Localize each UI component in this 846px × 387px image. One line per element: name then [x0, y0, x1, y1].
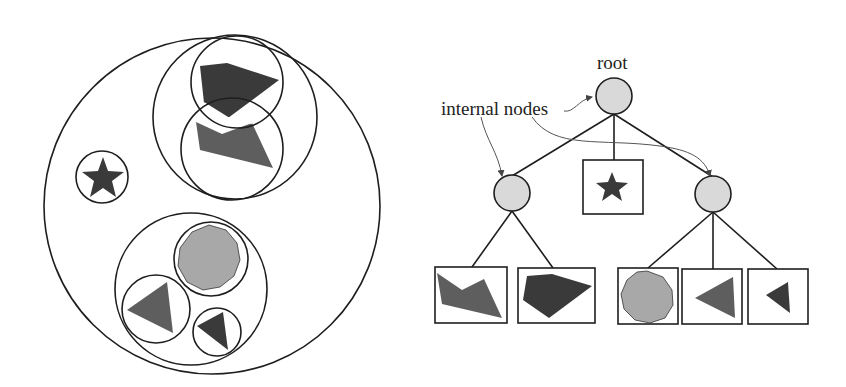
edge-right-leaf3 — [713, 212, 777, 269]
light-octagon-shape — [178, 225, 240, 290]
right-internal-node — [695, 176, 731, 212]
bvh-diagram: root internal nodes — [0, 0, 846, 387]
root-label: root — [597, 52, 628, 73]
hierarchy-tree: root internal nodes — [435, 52, 808, 324]
root-node — [596, 78, 632, 114]
edge-right-leaf1 — [648, 212, 713, 268]
gray-quadrilateral-shape — [196, 122, 273, 168]
small-dark-triangle-shape — [197, 312, 228, 350]
star-shape — [82, 157, 124, 197]
arrow-to-left-internal — [481, 117, 502, 176]
gray-triangle-shape — [127, 282, 173, 333]
arrow-to-root — [564, 97, 592, 111]
dark-pentagon-shape — [200, 63, 279, 118]
edge-left-leaf1 — [472, 211, 512, 267]
top-group-bounding-circle — [153, 35, 317, 199]
internal-nodes-label: internal nodes — [441, 98, 548, 119]
edge-left-leaf2 — [512, 211, 553, 268]
left-internal-node — [494, 175, 530, 211]
